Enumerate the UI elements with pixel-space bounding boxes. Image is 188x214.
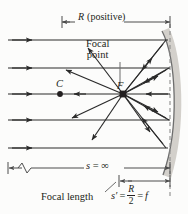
incoming-ray-arrowheads bbox=[12, 40, 32, 148]
fraction-numerator: R bbox=[127, 185, 135, 195]
radius-label: R(positive) bbox=[78, 12, 125, 23]
object-distance-symbol: s bbox=[86, 160, 90, 171]
focal-point-dot bbox=[120, 91, 127, 98]
focal-length-text-label: Focal length bbox=[41, 191, 93, 202]
focal-point-label-line1: Focal bbox=[86, 38, 109, 49]
formula-equals-1: = bbox=[119, 190, 125, 201]
radius-symbol: R bbox=[78, 11, 84, 22]
formula-equals-2: = bbox=[137, 190, 143, 201]
object-distance-value: ∞ bbox=[101, 160, 109, 171]
center-of-curvature-dot bbox=[57, 91, 63, 97]
focal-point-symbol-label: F bbox=[117, 80, 123, 91]
figure-canvas bbox=[0, 0, 188, 214]
focal-point-label-line2: point bbox=[86, 49, 109, 60]
optics-figure-concave-mirror: R(positive) Focal point C F s = ∞ Focal … bbox=[0, 0, 188, 214]
focal-length-symbol: f bbox=[145, 190, 148, 201]
radius-qualifier: (positive) bbox=[87, 11, 125, 22]
fraction-denominator: 2 bbox=[128, 197, 135, 207]
object-distance-label: s = ∞ bbox=[86, 160, 109, 171]
center-of-curvature-label: C bbox=[56, 78, 63, 89]
focal-point-label: Focal point bbox=[86, 38, 109, 60]
object-distance-equals: = bbox=[93, 160, 99, 171]
focal-length-formula: s′ = R 2 = f bbox=[111, 185, 148, 206]
mirror-body bbox=[162, 28, 181, 178]
image-distance-symbol: s′ bbox=[111, 190, 117, 201]
radius-over-two-fraction: R 2 bbox=[127, 185, 135, 206]
